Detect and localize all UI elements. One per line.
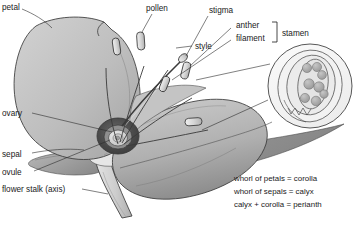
flower-diagram-canvas: petal pollen stigma style anther filamen… (0, 0, 357, 227)
legend-line-calyx: whorl of sepals = calyx (233, 187, 314, 196)
legend-line-perianth: calyx + corolla = perianth (234, 200, 322, 209)
flower-structure-diagram: petal pollen stigma style anther filamen… (0, 0, 357, 227)
anther-2 (136, 32, 145, 50)
label-petal: petal (2, 3, 20, 12)
pollen-grain (302, 63, 311, 72)
label-filament: filament (236, 34, 265, 43)
pollen-grain (318, 71, 327, 80)
pollen-grain (312, 62, 321, 71)
pollen-grain (300, 93, 309, 102)
label-sepal: sepal (2, 150, 22, 159)
pollen-grain (320, 90, 328, 98)
label-ovary: ovary (2, 109, 23, 118)
label-stigma: stigma (209, 6, 234, 15)
label-stamen: stamen (282, 29, 309, 38)
label-ovule: ovule (2, 168, 22, 177)
anther-5 (185, 117, 202, 126)
label-pollen: pollen (146, 4, 168, 13)
legend-block: whorl of petals = corolla whorl of sepal… (233, 174, 322, 209)
pollen-grain (304, 79, 314, 89)
legend-line-corolla: whorl of petals = corolla (233, 174, 318, 183)
label-flower-stalk: flower stalk (axis) (2, 185, 66, 194)
label-style: style (195, 42, 212, 51)
ovary-group (97, 118, 139, 154)
pollen-grain (311, 96, 321, 106)
label-anther: anther (236, 21, 259, 30)
